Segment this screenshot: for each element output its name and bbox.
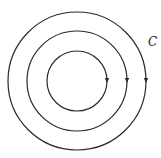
curve-label-c: C — [148, 35, 157, 49]
inner-circle — [47, 51, 107, 111]
concentric-circles-diagram: C — [0, 0, 161, 158]
outer-arrow-icon — [144, 78, 148, 83]
inner-arrow-icon — [105, 78, 109, 83]
middle-circle — [27, 31, 127, 131]
circles-group — [8, 12, 148, 150]
middle-arrow-icon — [125, 78, 129, 83]
outer-circle — [8, 12, 146, 150]
